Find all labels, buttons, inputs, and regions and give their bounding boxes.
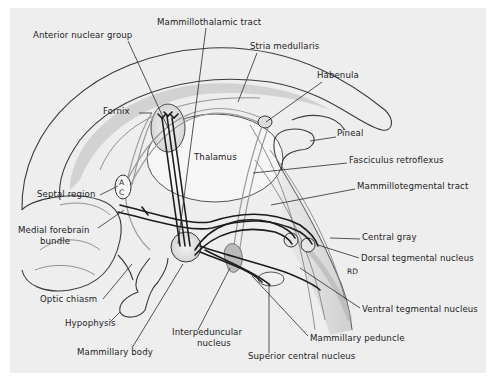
dorsal-tegmental-nucleus-shape (301, 238, 315, 252)
label-rd: RD (347, 267, 358, 276)
ventral-tegmental-nucleus-shape (284, 233, 298, 247)
label-dorsal-tegmental-nucleus: Dorsal tegmental nucleus (361, 253, 474, 263)
label-mammillary-body: Mammillary body (77, 347, 153, 357)
label-septal-region: Septal region (37, 189, 95, 199)
ac-letter-c: C (119, 188, 124, 197)
label-interpeduncular-nucleus: Interpeduncular (172, 327, 242, 337)
label-thalamus: Thalamus (193, 152, 237, 162)
label-medial-forebrain-bundle-line2: bundle (40, 236, 70, 246)
label-mammillary-peduncle: Mammillary peduncle (310, 333, 405, 343)
label-optic-chiasm: Optic chiasm (40, 294, 97, 304)
label-habenula: Habenula (317, 70, 359, 80)
anterior-commissure: A C (115, 175, 131, 199)
label-hypophysis: Hypophysis (65, 318, 116, 328)
label-stria-medullaris: Stria medullaris (250, 41, 320, 51)
neuroanatomy-diagram: A C (0, 0, 496, 381)
label-anterior-nuclear-group: Anterior nuclear group (33, 30, 132, 40)
label-pineal: Pineal (337, 128, 363, 138)
label-interpeduncular-nucleus-line2: nucleus (197, 338, 231, 348)
label-medial-forebrain-bundle: Medial forebrain (18, 225, 90, 235)
label-central-gray: Central gray (362, 232, 417, 242)
habenula-shape (258, 116, 272, 128)
label-fornix: Fornix (103, 106, 130, 116)
ac-letter-a: A (119, 178, 125, 187)
label-mammillotegmental-tract: Mammillotegmental tract (357, 181, 469, 191)
label-mammillothalamic-tract: Mammillothalamic tract (157, 17, 262, 27)
label-fasciculus-retroflexus: Fasciculus retroflexus (349, 155, 444, 165)
label-ventral-tegmental-nucleus: Ventral tegmental nucleus (362, 304, 478, 314)
label-superior-central-nucleus: Superior central nucleus (248, 351, 356, 361)
